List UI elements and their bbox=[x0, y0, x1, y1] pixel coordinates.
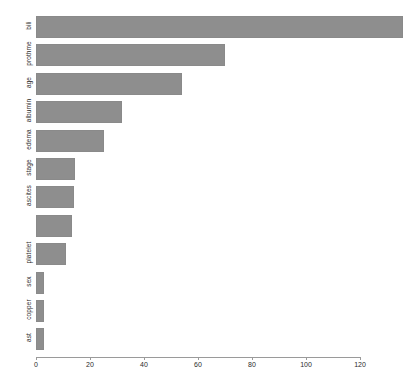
bar-row bbox=[36, 215, 72, 237]
bar bbox=[36, 130, 104, 152]
x-tick-mark bbox=[36, 357, 37, 360]
bar-row bbox=[36, 300, 44, 322]
bar-row bbox=[36, 16, 403, 38]
bar bbox=[36, 272, 44, 294]
x-tick-label: 80 bbox=[248, 361, 256, 368]
category-label: ast bbox=[25, 318, 32, 358]
bar bbox=[36, 16, 403, 38]
bar bbox=[36, 215, 72, 237]
bar bbox=[36, 73, 182, 95]
bar bbox=[36, 44, 225, 66]
x-tick-label: 20 bbox=[86, 361, 94, 368]
x-tick-mark bbox=[198, 357, 199, 360]
x-tick-mark bbox=[252, 357, 253, 360]
x-tick-mark bbox=[306, 357, 307, 360]
bar bbox=[36, 186, 74, 208]
bar-row bbox=[36, 243, 66, 265]
bar bbox=[36, 101, 122, 123]
bar-row bbox=[36, 101, 122, 123]
bar-row bbox=[36, 272, 44, 294]
bar-row bbox=[36, 73, 182, 95]
bar bbox=[36, 158, 75, 180]
bar bbox=[36, 243, 66, 265]
plot-area: biliprothmeagealbuminedemastageascitespl… bbox=[0, 0, 419, 392]
bar bbox=[36, 328, 44, 350]
bar-row bbox=[36, 186, 74, 208]
x-tick-mark bbox=[90, 357, 91, 360]
bar bbox=[36, 300, 44, 322]
bar-row bbox=[36, 44, 225, 66]
x-tick-label: 40 bbox=[140, 361, 148, 368]
x-tick-label: 100 bbox=[300, 361, 312, 368]
category-label: ascites bbox=[25, 176, 32, 216]
x-tick-label: 60 bbox=[194, 361, 202, 368]
x-tick-label: 0 bbox=[34, 361, 38, 368]
bar-row bbox=[36, 130, 104, 152]
x-tick-mark bbox=[144, 357, 145, 360]
bar-row bbox=[36, 158, 75, 180]
x-tick-mark bbox=[360, 357, 361, 360]
bar-chart: biliprothmeagealbuminedemastageascitespl… bbox=[0, 0, 419, 392]
x-tick-label: 120 bbox=[354, 361, 366, 368]
bar-row bbox=[36, 328, 44, 350]
